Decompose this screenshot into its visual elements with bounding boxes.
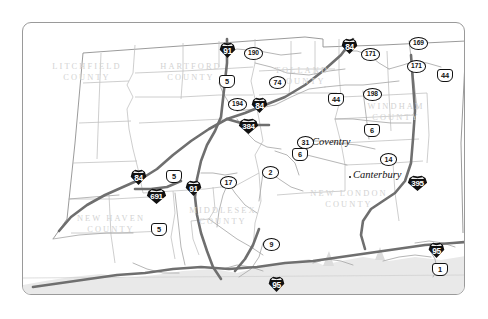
shield-interstate-384[interactable]: 384	[238, 118, 259, 134]
shield-number: 84	[134, 174, 143, 182]
shield-number: 395	[411, 180, 423, 188]
major-highways	[33, 39, 465, 287]
shield-state-31[interactable]: 31	[297, 136, 314, 149]
shield-number: 198	[367, 91, 378, 98]
shield-number: 171	[365, 51, 376, 58]
shield-number: 84	[345, 43, 354, 51]
shield-state-171-west[interactable]: 171	[361, 48, 380, 61]
shield-number: 5	[225, 78, 229, 85]
shield-us-44-east[interactable]: 44	[437, 69, 453, 82]
city-label-canterbury[interactable]: Canterbury	[353, 169, 401, 180]
map-geometry	[23, 23, 465, 295]
map-frame[interactable]: LITCHFIELD COUNTY HARTFORD COUNTY TOLLAN…	[22, 22, 465, 295]
shield-number: 5	[157, 226, 161, 233]
shield-interstate-95-east[interactable]: 95	[428, 242, 445, 258]
shield-interstate-395[interactable]: 395	[407, 175, 428, 191]
shield-state-171-east[interactable]: 171	[407, 60, 426, 73]
shield-number: 44	[332, 96, 340, 103]
shield-state-198[interactable]: 198	[363, 88, 382, 101]
shield-us-44-west[interactable]: 44	[328, 93, 344, 106]
shield-us-5-south[interactable]: 5	[151, 223, 167, 236]
water-shading	[23, 247, 465, 295]
shield-us-6-west[interactable]: 6	[292, 148, 308, 161]
county-boundaries	[69, 39, 429, 263]
shield-number: 171	[411, 63, 422, 70]
shield-us-1[interactable]: 1	[432, 263, 448, 276]
shield-number: 1	[438, 266, 442, 273]
shield-number: 91	[223, 47, 232, 55]
shield-number: 84	[255, 102, 264, 110]
shield-number: 190	[248, 50, 259, 57]
shield-number: 74	[274, 79, 282, 86]
shield-number: 384	[242, 123, 254, 131]
shield-number: 6	[370, 127, 374, 134]
shield-interstate-95-west[interactable]: 95	[268, 276, 285, 292]
shield-number: 95	[432, 247, 441, 255]
shield-state-9[interactable]: 9	[263, 238, 280, 251]
shield-state-190[interactable]: 190	[244, 47, 263, 60]
shield-number: 17	[225, 179, 233, 186]
shield-interstate-91-south[interactable]: 91	[185, 180, 202, 196]
shield-number: 91	[189, 185, 198, 193]
shield-state-2[interactable]: 2	[262, 166, 279, 179]
shield-number: 5	[172, 173, 176, 180]
shield-interstate-84-tolland[interactable]: 84	[251, 97, 268, 113]
shield-number: 691	[150, 193, 162, 201]
shield-number: 95	[272, 281, 281, 289]
shield-number: 194	[232, 101, 243, 108]
shield-us-6-east[interactable]: 6	[364, 124, 380, 137]
city-label-coventry[interactable]: Coventry	[312, 136, 351, 147]
shield-state-14[interactable]: 14	[380, 153, 397, 166]
shield-number: 6	[298, 151, 302, 158]
shield-number: 2	[269, 169, 273, 176]
shield-number: 31	[302, 139, 310, 146]
shield-number: 44	[441, 72, 449, 79]
shield-interstate-84-west[interactable]: 84	[130, 169, 147, 185]
shield-state-17[interactable]: 17	[220, 176, 237, 189]
shield-us-5-north[interactable]: 5	[219, 75, 235, 88]
shield-state-74[interactable]: 74	[269, 76, 286, 89]
shield-interstate-691[interactable]: 691	[146, 188, 167, 204]
map-screenshot: LITCHFIELD COUNTY HARTFORD COUNTY TOLLAN…	[0, 0, 488, 319]
shield-interstate-84-northeast[interactable]: 84	[341, 38, 358, 54]
shield-number: 169	[413, 40, 424, 47]
shield-us-5-mid[interactable]: 5	[166, 170, 182, 183]
shield-state-194[interactable]: 194	[228, 98, 247, 111]
shield-state-169[interactable]: 169	[409, 37, 428, 50]
shield-interstate-91-north[interactable]: 91	[219, 42, 236, 58]
shield-number: 9	[270, 241, 274, 248]
shield-number: 14	[385, 156, 393, 163]
